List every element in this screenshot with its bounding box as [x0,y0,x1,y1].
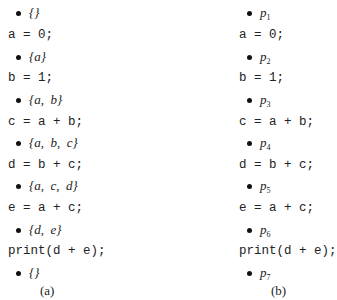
set-text: {d, e} [29,222,61,237]
caption-a: (a) [40,281,54,300]
panel-a: {}a = 0;{a}b = 1;{a, b}c = a + b;{a, b, … [0,0,165,300]
bullet-icon [16,11,21,16]
set-text: {} [29,265,39,280]
code-line: b = 1; [239,68,284,88]
set-text: {a} [29,49,46,64]
bullet-icon [16,55,21,60]
point-label: p3 [260,92,271,107]
live-set-annotation: {d, e} [16,220,61,240]
live-set-annotation: {a, b, c} [16,133,78,153]
code-line: d = b + c; [239,155,314,175]
code-line: b = 1; [8,68,53,88]
program-point-annotation: p1 [247,3,271,23]
program-point-annotation: p5 [247,176,271,196]
live-set-annotation: {a} [16,47,46,67]
set-text: {a, c, d} [29,178,78,193]
set-text: {a, b} [29,92,62,107]
bullet-icon [16,141,21,146]
code-line: a = 0; [8,25,53,45]
code-line: print(d + e); [239,241,337,261]
code-line: e = a + c; [239,198,314,218]
live-set-annotation: {a, b} [16,90,62,110]
code-line: d = b + c; [8,155,83,175]
program-point-annotation: p3 [247,90,271,110]
live-set-annotation: {} [16,263,39,283]
panel-b: p1a = 0;p2b = 1;p3c = a + b;p4d = b + c;… [165,0,330,300]
point-label: p4 [260,135,271,150]
bullet-icon [247,11,252,16]
bullet-icon [247,184,252,189]
program-point-annotation: p7 [247,263,271,283]
live-set-annotation: {} [16,3,39,23]
bullet-icon [247,98,252,103]
program-point-annotation: p6 [247,220,271,240]
set-text: {} [29,5,39,20]
bullet-icon [16,98,21,103]
bullet-icon [247,141,252,146]
code-line: a = 0; [239,25,284,45]
bullet-icon [16,271,21,276]
point-label: p7 [260,265,271,280]
bullet-icon [247,271,252,276]
code-line: e = a + c; [8,198,83,218]
point-label: p1 [260,5,271,20]
point-label: p6 [260,222,271,237]
code-line: c = a + b; [8,112,83,132]
bullet-icon [16,228,21,233]
live-set-annotation: {a, c, d} [16,176,78,196]
program-point-annotation: p4 [247,133,271,153]
code-line: c = a + b; [239,112,314,132]
program-point-annotation: p2 [247,47,271,67]
bullet-icon [16,184,21,189]
code-line: print(d + e); [8,241,106,261]
point-label: p5 [260,178,271,193]
caption-b: (b) [271,281,286,300]
bullet-icon [247,228,252,233]
set-text: {a, b, c} [29,135,78,150]
bullet-icon [247,55,252,60]
point-label: p2 [260,49,271,64]
